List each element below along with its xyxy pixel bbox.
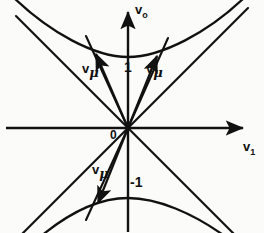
v-one-axis-label-subscript: 1 (250, 147, 255, 157)
vmu-lower-left-label-subscript: μ (99, 166, 109, 181)
v-zero-axis-label: vo (135, 3, 148, 20)
v-zero-axis-label-subscript: o (142, 10, 148, 20)
vmu-upper-left-label-subscript: μ (89, 65, 99, 80)
vmu-lower-left-label: vμ (92, 163, 109, 180)
vmu-upper-right-label-subscript: μ (153, 65, 163, 80)
diagram-canvas (0, 0, 264, 233)
v-one-axis-label: v1 (243, 140, 255, 157)
vmu-upper-left-label: vμ (82, 62, 99, 79)
y-tick-label-minus-one: -1 (130, 175, 142, 189)
vmu-upper-right-label: vμ (146, 62, 163, 79)
origin-label: 0 (110, 129, 117, 141)
y-tick-label-one: 1 (124, 60, 132, 74)
hyperbola-velocity-diagram: vo v1 0 1 -1 vμ vμ vμ (0, 0, 264, 233)
lower-hyperbola-branch (40, 198, 226, 233)
